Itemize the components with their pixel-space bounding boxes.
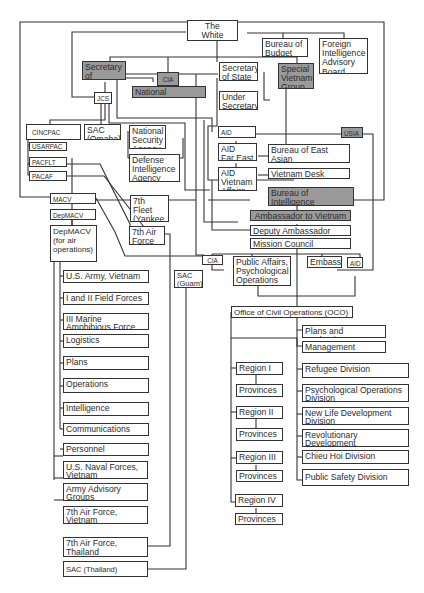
box-fiab: Foreign Intelligence Advisory Board: [319, 38, 368, 74]
box-public-safety-division: Public Safety Division: [302, 469, 409, 486]
box-us-army-vietnam: U.S. Army, Vietnam: [63, 270, 149, 283]
box-mission-council: Mission Council: [250, 238, 351, 249]
box-psychological-operations-division: Psychological Operations Division: [302, 384, 409, 402]
box-pacflt: PACFLT: [29, 157, 67, 167]
box-aid-far-east: AID Far East: [218, 143, 257, 161]
box-provinces-1: Provinces: [236, 384, 283, 397]
box-communications: Communications: [63, 423, 149, 436]
box-depmacv: DepMACV: [50, 209, 96, 220]
box-sac-guam: SAC (Guam): [174, 270, 203, 288]
box-special-vietnam-group: Special Vietnam Group: [278, 63, 314, 89]
box-national-estimates: National Estimates: [132, 86, 206, 98]
box-us-naval-forces: U.S. Naval Forces, Vietnam: [63, 461, 148, 479]
box-management: Management: [302, 341, 386, 353]
box-provinces-3: Provinces: [236, 470, 283, 482]
box-usarpac: USARPAC: [29, 142, 67, 151]
box-region-4: Region IV: [235, 494, 283, 507]
box-personnel: Personnel: [63, 443, 149, 456]
box-office-civil-operations: Office of Civil Operations (OCO): [231, 306, 353, 318]
box-operations: Operations: [63, 378, 149, 393]
box-pacaf: PACAF: [29, 171, 67, 181]
box-macv: MACV: [50, 193, 96, 204]
box-jcs: JCS: [94, 92, 112, 104]
box-nsa: National Security Agency: [129, 125, 166, 149]
box-7th-air-force: 7th Air Force: [129, 226, 165, 245]
box-provinces-2: Provinces: [236, 428, 283, 441]
box-bureau-of-budget: Bureau of Budget: [262, 38, 308, 57]
box-7th-af-thailand: 7th Air Force, Thailand: [63, 537, 148, 557]
box-public-affairs-psyops: Public Affairs, Psychological Operations: [233, 256, 291, 286]
box-army-advisory-groups: Army Advisory Groups: [63, 483, 148, 501]
box-deputy-ambassador: Deputy Ambassador: [250, 225, 351, 236]
box-aid-vietnam-affairs: AID Vietnam Affairs: [218, 167, 257, 191]
box-field-forces: I and II Field Forces: [63, 292, 149, 305]
box-under-secretary: Under Secretary: [219, 91, 258, 110]
box-white-house: The White House: [187, 20, 238, 41]
box-region-2: Region II: [236, 406, 283, 419]
box-refugee-division: Refugee Division: [302, 363, 409, 378]
box-sac-thailand: SAC (Thailand): [63, 561, 148, 577]
box-region-3: Region III: [236, 451, 283, 464]
box-7th-af-vietnam: 7th Air Force, Vietnam: [63, 506, 148, 524]
box-aid-top: AID: [218, 126, 256, 138]
box-vietnam-desk: Vietnam Desk: [268, 168, 350, 179]
box-cia-top: CIA: [157, 72, 179, 86]
box-cincpac: CINCPAC: [26, 124, 81, 140]
box-cia-mission: CIA: [202, 255, 223, 265]
box-embassy: Embassy: [307, 256, 342, 268]
box-ambassador-to-vietnam: Ambassador to Vietnam: [250, 210, 351, 221]
box-depmacv-air: DepMACV (for air operations): [50, 225, 97, 262]
box-intelligence: Intelligence: [63, 402, 149, 416]
box-region-1: Region I: [236, 362, 283, 375]
box-usia: USIA: [341, 127, 363, 138]
box-new-life-development-division: New Life Development Division: [302, 407, 409, 425]
box-bureau-intelligence-research: Bureau of Intelligence and Research: [268, 187, 354, 206]
box-provinces-4: Provinces: [235, 513, 283, 525]
box-revolutionary-development-division: Revolutionary Development Division: [302, 429, 409, 447]
box-bureau-east-asian-pacific: Bureau of East Asian and Pacific Affairs: [268, 144, 350, 163]
box-dia: Defense Intelligence Agency: [129, 154, 180, 182]
box-plans-and-evaluation: Plans and Evaluation: [302, 325, 386, 338]
box-chieu-hoi-division: Chieu Hoi Division: [302, 450, 409, 464]
box-logistics: Logistics: [63, 334, 149, 348]
box-7th-fleet: 7th Fleet (Yankee Station): [130, 195, 169, 222]
box-aid-mission: AID: [347, 257, 363, 268]
box-sac-omaha: SAC (Omaha): [84, 124, 121, 140]
box-iii-marine-amphibious-force: III Marine Amphibious Force: [63, 313, 149, 330]
box-secretary-of-defense: Secretary of Defense: [82, 61, 126, 80]
box-secretary-of-state: Secretary of State: [219, 62, 258, 81]
box-plans: Plans: [63, 356, 149, 370]
